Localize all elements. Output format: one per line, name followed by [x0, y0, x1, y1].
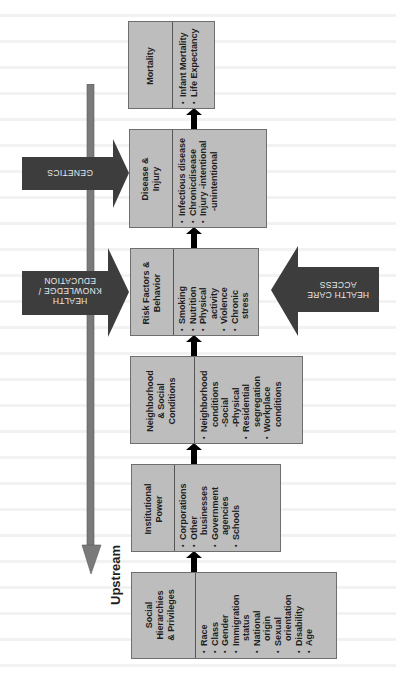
box-divider [195, 573, 196, 658]
list-item: Race [199, 577, 210, 653]
box-divider [172, 22, 173, 108]
list-item: Nutrition [188, 255, 199, 331]
list-item: Sexual orientation [273, 577, 294, 653]
list-item: Government agencies [210, 469, 231, 547]
list-item: Schools [231, 469, 242, 547]
list-item: Physical activity [198, 255, 219, 331]
box-title: Institutional Power [143, 473, 165, 545]
box-disease-injury: Disease & Injury Infectious disease Chro… [129, 129, 267, 228]
list-item: National origin [252, 577, 273, 653]
box-items: Race Class Gender Immigration status Nat… [199, 577, 315, 653]
health-care-access-label: HEALTH CARE ACCESS [300, 280, 376, 300]
list-item: Residential segregation [241, 361, 262, 439]
box-items: Infant Mortality Life Expectancy [178, 26, 199, 104]
box-items: Smoking Nutrition Physical activity Viol… [177, 255, 251, 331]
list-item: Injury -intentional -unintentional [198, 135, 219, 223]
list-item: Infant Mortality [178, 26, 189, 104]
list-item: Chronicdisease [188, 135, 199, 223]
box-divider [172, 130, 173, 227]
box-title: Risk Factors & Behavior [141, 255, 163, 331]
list-item: Life Expectancy [189, 26, 200, 104]
box-title: Disease & Injury [140, 140, 162, 218]
box-divider [194, 357, 195, 443]
box-mortality: Mortality Infant Mortality Life Expectan… [128, 21, 215, 109]
list-item: Age [304, 577, 315, 653]
box-social-hierarchies: Social Hierarchies & Privileges Race Cla… [131, 572, 337, 659]
list-item: Gender [220, 577, 231, 653]
box-divider [173, 249, 174, 335]
list-item: Neighborhood conditions -Social -Physica… [199, 361, 241, 439]
list-item: Infectious disease [177, 135, 188, 223]
list-item: Smoking [177, 255, 188, 331]
list-item: Chronic stress [230, 255, 251, 331]
list-item: Violence [219, 255, 230, 331]
box-items: Infectious disease Chronicdisease Injury… [177, 135, 219, 223]
list-item: Disability [294, 577, 305, 653]
list-item: Other businesses [189, 469, 210, 547]
genetics-arrow-label: GENETICS [30, 168, 110, 178]
box-institutional-power: Institutional Power Corporations Other b… [131, 464, 281, 552]
connector-arrow-4 [185, 227, 203, 249]
box-divider [174, 465, 175, 551]
list-item: Corporations [178, 469, 189, 547]
box-title: Mortality [145, 28, 156, 104]
box-risk-factors-behavior: Risk Factors & Behavior Smoking Nutritio… [130, 248, 259, 336]
box-title: Neighborhood & Social Conditions [145, 365, 178, 437]
health-knowledge-education-label: HEALTH KNOWLEDGE / EDUCATION [30, 276, 110, 306]
connector-arrow-3 [185, 335, 203, 357]
upstream-label: Upstream [108, 545, 123, 605]
box-items: Neighborhood conditions -Social -Physica… [199, 361, 283, 439]
connector-arrow-1 [185, 551, 203, 573]
list-item: Immigration status [231, 577, 252, 653]
connector-arrow-2 [185, 443, 203, 465]
list-item: Workplace conditions [262, 361, 283, 439]
box-items: Corporations Other businesses Government… [178, 469, 241, 547]
box-neighborhood-social-conditions: Neighborhood & Social Conditions Neighbo… [130, 356, 303, 444]
box-title: Social Hierarchies & Privileges [144, 579, 177, 651]
connector-arrow-5 [185, 108, 203, 130]
list-item: Class [210, 577, 221, 653]
